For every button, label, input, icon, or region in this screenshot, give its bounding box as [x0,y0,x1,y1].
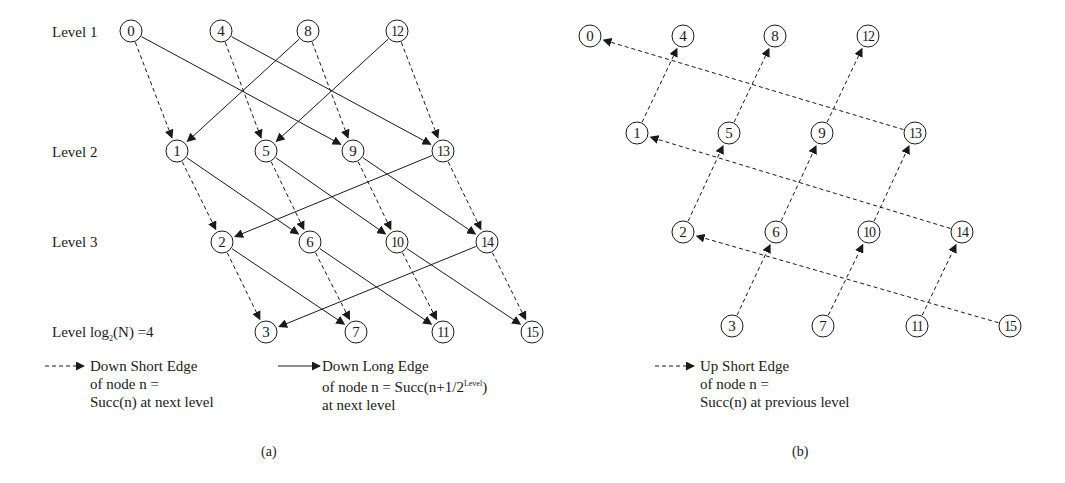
down-long-edge-4-to-13 [232,37,431,145]
b-node-14: 14 [951,221,973,243]
down-short-edge-0-to-1 [135,42,172,138]
level-4-label: Level log2(N) =4 [52,323,154,348]
a-node-4: 4 [210,20,232,42]
up-short-edge-14-to-1 [650,137,950,228]
svg-text:3: 3 [262,324,270,340]
down-long-edge-5-to-10 [276,158,386,234]
a-node-3: 3 [255,321,277,343]
up-short-edge-6-to-9 [781,146,816,221]
b-node-1: 1 [626,122,648,144]
svg-text:2: 2 [218,234,226,250]
svg-text:1: 1 [173,143,181,159]
down-long-edge-2-to-7 [232,249,344,325]
b-node-11: 11 [906,315,928,337]
a-node-2: 2 [211,231,233,253]
a-node-1: 1 [166,140,188,162]
a-node-10: 10 [386,231,408,253]
down-long-edge-13-to-2 [235,156,432,237]
svg-text:9: 9 [818,125,826,141]
down-long-edge-1-to-6 [187,158,299,234]
panel-a-edges [135,37,525,327]
a-node-7: 7 [345,321,367,343]
up-short-edge-5-to-8 [734,49,769,123]
b-node-15: 15 [999,315,1021,337]
down-long-edge-6-to-11 [320,249,432,325]
svg-text:14: 14 [481,235,494,250]
svg-text:4: 4 [679,28,687,44]
b-node-13: 13 [904,122,926,144]
down-long-edge-9-to-14 [363,158,476,234]
up-short-edge-10-to-13 [874,146,909,221]
down-long-edge-0-to-9 [142,37,341,145]
svg-text:10: 10 [863,225,876,240]
b-node-10: 10 [858,221,880,243]
a-node-8: 8 [297,20,319,42]
down-long-edge-8-to-1 [187,39,299,141]
svg-text:5: 5 [725,125,733,141]
legend-up-short-edge-text: Up Short Edge of node n = Succ(n) at pre… [700,357,850,411]
up-short-edge-15-to-2 [697,236,999,323]
svg-text:6: 6 [306,234,314,250]
svg-text:4: 4 [217,23,225,39]
level-1-label: Level 1 [52,23,97,41]
b-node-4: 4 [672,25,694,47]
a-node-6: 6 [299,231,321,253]
svg-text:15: 15 [1004,319,1017,334]
b-node-3: 3 [721,315,743,337]
up-short-edge-3-to-6 [737,245,770,315]
b-node-2: 2 [672,221,694,243]
svg-text:7: 7 [352,324,360,340]
down-short-edge-1-to-2 [182,162,216,230]
svg-text:11: 11 [911,319,923,334]
panel-b-edges [603,40,998,323]
svg-text:13: 13 [437,144,450,159]
b-node-5: 5 [718,122,740,144]
svg-text:9: 9 [349,143,357,159]
svg-text:2: 2 [679,224,687,240]
svg-text:8: 8 [771,28,779,44]
panel-a-nodes: 0481215913261014371115 [120,20,543,343]
svg-text:6: 6 [772,224,780,240]
down-short-edge-2-to-3 [227,253,260,320]
up-short-edge-2-to-5 [688,146,723,221]
b-node-12: 12 [857,25,879,47]
legend-short-edge-text: Down Short Edge of node n = Succ(n) at n… [90,357,214,411]
b-node-7: 7 [812,315,834,337]
up-short-edge-13-to-0 [603,40,903,130]
level-2-label: Level 2 [52,143,97,161]
a-node-11: 11 [432,321,454,343]
svg-text:14: 14 [956,225,969,240]
a-node-14: 14 [476,231,498,253]
down-short-edge-9-to-10 [358,162,391,230]
up-short-edge-9-to-12 [827,49,862,123]
a-node-9: 9 [342,140,364,162]
legend-long-edge-text: Down Long Edge of node n = Succ(n+1/2Lev… [322,357,487,414]
a-node-15: 15 [521,321,543,343]
b-node-0: 0 [579,25,601,47]
svg-text:7: 7 [819,318,827,334]
svg-text:12: 12 [862,29,875,44]
b-node-8: 8 [764,25,786,47]
svg-text:0: 0 [586,28,594,44]
level-3-label: Level 3 [52,233,97,251]
caption-a: (a) [261,444,277,460]
svg-text:0: 0 [127,23,135,39]
svg-text:8: 8 [304,23,312,39]
a-node-13: 13 [432,140,454,162]
b-node-9: 9 [811,122,833,144]
a-node-0: 0 [120,20,142,42]
b-node-6: 6 [765,221,787,243]
down-short-edge-12-to-13 [401,42,438,138]
svg-text:3: 3 [728,318,736,334]
a-node-12: 12 [386,20,408,42]
up-short-edge-11-to-14 [922,245,956,316]
caption-b: (b) [792,444,808,460]
svg-text:15: 15 [526,325,539,340]
down-short-edge-10-to-11 [403,253,437,320]
down-long-edge-14-to-3 [279,247,476,327]
svg-text:12: 12 [391,24,404,39]
svg-text:1: 1 [633,125,641,141]
a-node-5: 5 [255,140,277,162]
up-short-edge-1-to-4 [642,49,677,123]
svg-text:5: 5 [262,143,270,159]
